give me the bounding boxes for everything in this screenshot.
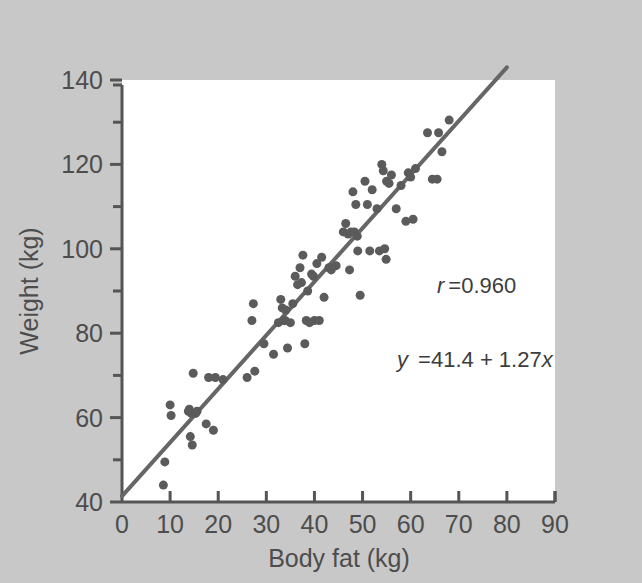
regression-y-symbol: y bbox=[395, 347, 410, 372]
y-tick-label: 40 bbox=[75, 488, 103, 516]
data-point bbox=[281, 305, 290, 314]
data-point bbox=[243, 373, 252, 382]
data-point bbox=[406, 173, 415, 182]
data-point bbox=[351, 200, 360, 209]
data-point bbox=[317, 253, 326, 262]
data-point bbox=[387, 170, 396, 179]
y-tick-label: 80 bbox=[75, 319, 103, 347]
data-point bbox=[309, 272, 318, 281]
data-point bbox=[193, 407, 202, 416]
data-point bbox=[365, 246, 374, 255]
data-point bbox=[297, 278, 306, 287]
data-point bbox=[411, 164, 420, 173]
data-point bbox=[409, 215, 418, 224]
y-axis-title: Weight (kg) bbox=[15, 227, 43, 354]
y-tick-label: 100 bbox=[61, 235, 103, 263]
x-tick-label: 40 bbox=[301, 510, 329, 538]
regression-annotation: y =41.4 + 1.27x bbox=[395, 347, 554, 372]
data-point bbox=[269, 350, 278, 359]
data-point bbox=[320, 293, 329, 302]
data-point bbox=[423, 128, 432, 137]
data-point bbox=[303, 287, 312, 296]
data-point bbox=[434, 128, 443, 137]
data-point bbox=[283, 343, 292, 352]
data-point bbox=[445, 116, 454, 125]
data-point bbox=[380, 244, 389, 253]
data-point bbox=[356, 291, 365, 300]
x-tick-label: 60 bbox=[397, 510, 425, 538]
x-tick-label: 0 bbox=[115, 510, 129, 538]
data-point bbox=[353, 246, 362, 255]
data-point bbox=[368, 185, 377, 194]
data-point bbox=[360, 177, 369, 186]
y-tick-label: 120 bbox=[61, 150, 103, 178]
correlation-annotation: r=0.960 bbox=[437, 273, 516, 298]
y-tick-label: 140 bbox=[61, 66, 103, 94]
data-point bbox=[353, 232, 362, 241]
data-point bbox=[288, 299, 297, 308]
data-point bbox=[209, 426, 218, 435]
data-point bbox=[211, 373, 220, 382]
data-point bbox=[385, 179, 394, 188]
x-tick-label: 90 bbox=[541, 510, 569, 538]
data-point bbox=[298, 251, 307, 260]
data-point bbox=[160, 457, 169, 466]
y-tick-label: 60 bbox=[75, 404, 103, 432]
x-tick-label: 10 bbox=[156, 510, 184, 538]
x-axis-title: Body fat (kg) bbox=[268, 544, 410, 572]
regression-x-symbol: x bbox=[541, 347, 554, 372]
data-point bbox=[348, 187, 357, 196]
data-point bbox=[259, 339, 268, 348]
data-point bbox=[300, 339, 309, 348]
data-point bbox=[372, 204, 381, 213]
x-tick-label: 70 bbox=[445, 510, 473, 538]
data-point bbox=[250, 367, 259, 376]
data-point bbox=[286, 318, 295, 327]
regression-body: =41.4 + 1.27 bbox=[412, 347, 542, 372]
scatterplot-svg: 4060801001201400102030405060708090 Body … bbox=[0, 0, 642, 583]
data-point bbox=[296, 263, 305, 272]
correlation-value: =0.960 bbox=[448, 273, 516, 298]
data-point bbox=[166, 400, 175, 409]
data-point bbox=[397, 181, 406, 190]
data-point bbox=[332, 261, 341, 270]
x-tick-label: 30 bbox=[252, 510, 280, 538]
data-point bbox=[202, 419, 211, 428]
data-point bbox=[315, 316, 324, 325]
data-point bbox=[345, 265, 354, 274]
data-point bbox=[167, 411, 176, 420]
data-point bbox=[249, 299, 258, 308]
data-point bbox=[392, 204, 401, 213]
data-point bbox=[186, 432, 195, 441]
data-point bbox=[247, 316, 256, 325]
x-tick-label: 80 bbox=[493, 510, 521, 538]
chart-figure: 4060801001201400102030405060708090 Body … bbox=[0, 0, 642, 583]
data-point bbox=[276, 295, 285, 304]
data-point bbox=[363, 200, 372, 209]
x-tick-label: 50 bbox=[349, 510, 377, 538]
data-point bbox=[159, 481, 168, 490]
data-point bbox=[437, 147, 446, 156]
x-tick-label: 20 bbox=[204, 510, 232, 538]
data-point bbox=[341, 219, 350, 228]
data-point bbox=[219, 375, 228, 384]
data-point bbox=[382, 255, 391, 264]
data-point bbox=[188, 441, 197, 450]
data-point bbox=[189, 369, 198, 378]
data-point bbox=[433, 175, 442, 184]
data-point bbox=[379, 166, 388, 175]
